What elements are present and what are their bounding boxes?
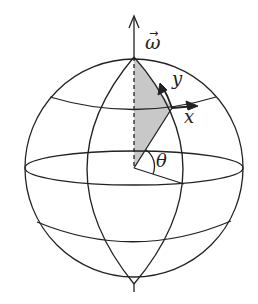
left-meridian-line — [87, 57, 134, 284]
theta-label: θ — [156, 152, 167, 170]
theta-arc — [146, 150, 155, 174]
lower-latitude-line — [37, 221, 231, 242]
diagram-svg — [0, 0, 258, 304]
sphere-diagram: → ω y x θ — [0, 0, 258, 304]
omega-label: ω — [145, 33, 161, 52]
x-axis-label: x — [184, 108, 194, 126]
y-axis-label: y — [172, 70, 182, 88]
